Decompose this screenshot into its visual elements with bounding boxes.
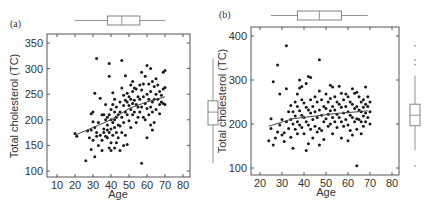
data-point bbox=[362, 106, 365, 109]
data-point bbox=[318, 58, 321, 61]
data-point bbox=[111, 91, 114, 94]
panel-b-plot-area bbox=[251, 27, 399, 175]
data-point bbox=[138, 111, 141, 114]
panel-a-plot-area bbox=[47, 34, 190, 177]
data-point bbox=[146, 93, 149, 96]
data-point bbox=[292, 123, 295, 126]
outlier-point bbox=[414, 64, 416, 66]
data-point bbox=[340, 92, 343, 95]
data-point bbox=[146, 64, 149, 67]
data-point bbox=[158, 112, 161, 115]
data-point bbox=[320, 98, 323, 101]
data-point bbox=[340, 137, 343, 140]
data-point bbox=[135, 88, 138, 91]
x-tick-label: 30 bbox=[276, 177, 288, 189]
data-point bbox=[294, 115, 297, 118]
data-point bbox=[274, 137, 277, 140]
data-point bbox=[327, 125, 330, 128]
data-point bbox=[113, 147, 116, 150]
data-point bbox=[142, 95, 145, 98]
data-point bbox=[300, 114, 303, 117]
x-tick-label: 40 bbox=[298, 177, 310, 189]
panel-a: (a) 1020304050607080100150200250300350 A… bbox=[8, 16, 218, 200]
data-point bbox=[364, 86, 367, 89]
data-point bbox=[292, 147, 295, 150]
data-point bbox=[294, 101, 297, 104]
y-tick-label: 350 bbox=[25, 37, 43, 49]
data-point bbox=[104, 118, 107, 121]
data-point bbox=[101, 149, 104, 152]
data-point bbox=[133, 99, 136, 102]
data-point bbox=[119, 124, 122, 127]
x-tick-label: 80 bbox=[386, 177, 398, 189]
data-point bbox=[331, 116, 334, 119]
data-point bbox=[364, 120, 367, 123]
data-point bbox=[278, 93, 281, 96]
data-point bbox=[329, 97, 332, 100]
data-point bbox=[95, 131, 98, 134]
data-point bbox=[309, 112, 312, 115]
data-point bbox=[298, 123, 301, 126]
data-point bbox=[283, 131, 286, 134]
data-point bbox=[95, 57, 98, 60]
panel-b-label: (b) bbox=[219, 9, 231, 21]
data-point bbox=[115, 106, 118, 109]
data-point bbox=[309, 98, 312, 101]
data-point bbox=[110, 141, 113, 144]
data-point bbox=[331, 86, 334, 89]
data-point bbox=[344, 118, 347, 121]
data-point bbox=[309, 76, 312, 79]
panel-a-marginal-boxplot-age bbox=[75, 16, 165, 25]
data-point bbox=[349, 129, 352, 132]
data-point bbox=[364, 112, 367, 115]
data-point bbox=[88, 136, 91, 139]
data-point bbox=[362, 115, 365, 118]
data-point bbox=[355, 164, 358, 167]
data-point bbox=[358, 95, 361, 98]
data-point bbox=[336, 126, 339, 129]
panel-a-axis-ticks: 1020304050607080100150200250300350 bbox=[25, 34, 190, 191]
data-point bbox=[160, 94, 163, 97]
data-point bbox=[322, 138, 325, 141]
data-point bbox=[322, 120, 325, 123]
data-point bbox=[108, 113, 111, 116]
data-point bbox=[102, 128, 105, 131]
data-point bbox=[149, 106, 152, 109]
data-point bbox=[351, 116, 354, 119]
data-point bbox=[155, 93, 158, 96]
panel-a-label: (a) bbox=[10, 18, 21, 30]
y-tick-label: 200 bbox=[25, 114, 43, 126]
data-point bbox=[164, 86, 167, 89]
data-point bbox=[120, 116, 123, 119]
data-point bbox=[287, 110, 290, 113]
data-point bbox=[110, 108, 113, 111]
data-point bbox=[158, 90, 161, 93]
y-tick-label: 150 bbox=[25, 139, 43, 151]
data-point bbox=[146, 107, 149, 110]
data-point bbox=[305, 82, 308, 85]
data-point bbox=[108, 62, 111, 65]
data-point bbox=[349, 114, 352, 117]
data-point bbox=[153, 85, 156, 88]
data-point bbox=[281, 118, 284, 121]
data-point bbox=[117, 136, 120, 139]
data-point bbox=[298, 79, 301, 82]
data-point bbox=[126, 92, 129, 95]
data-point bbox=[155, 77, 158, 80]
data-point bbox=[338, 85, 341, 88]
data-point bbox=[111, 134, 114, 137]
data-point bbox=[119, 100, 122, 103]
x-tick-label: 20 bbox=[69, 179, 81, 191]
data-point bbox=[137, 95, 140, 98]
data-point bbox=[113, 98, 116, 101]
panel-b-x-axis-label: Age bbox=[316, 186, 336, 198]
data-point bbox=[106, 136, 109, 139]
data-point bbox=[102, 131, 105, 134]
data-point bbox=[331, 132, 334, 135]
data-point bbox=[140, 106, 143, 109]
x-tick-label: 60 bbox=[141, 179, 153, 191]
data-point bbox=[106, 123, 109, 126]
data-point bbox=[111, 103, 114, 106]
data-point bbox=[129, 126, 132, 129]
data-point bbox=[287, 127, 290, 130]
